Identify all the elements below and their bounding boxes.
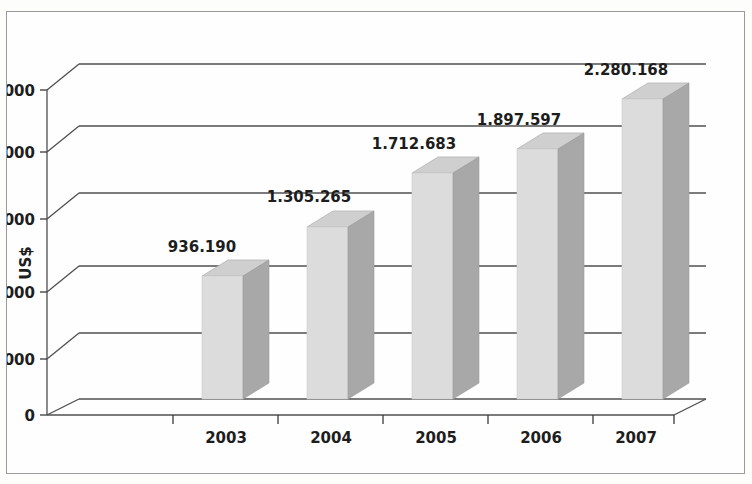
depth-line-1000000	[47, 266, 79, 292]
depth-line-0	[47, 399, 79, 415]
bar-2003[interactable]	[202, 260, 269, 399]
value-label-2007: 2.280.168	[584, 61, 668, 79]
bar-2004-front	[307, 227, 348, 399]
bar-2003-side	[243, 260, 269, 399]
y-tick-label-500000: 500.000	[7, 351, 35, 369]
page-background: 2.500.000 2.000.000 1.500.000 1.000.000 …	[0, 0, 752, 484]
bar-2004[interactable]	[307, 211, 374, 399]
bar-2007[interactable]	[622, 83, 689, 399]
value-label-2004: 1.305.265	[267, 188, 351, 206]
y-tick-label-1500000: 1.500.000	[7, 211, 35, 229]
y-tick-label-0: 0	[25, 407, 35, 425]
bar-2007-front	[622, 99, 663, 399]
bar-2005-side	[453, 157, 479, 399]
x-tickmarks-group	[173, 415, 674, 424]
x-category-labels-group: 2003 2004 2005 2006 2007	[205, 429, 657, 447]
y-tick-label-1000000: 1.000.000	[7, 284, 35, 302]
value-label-2006: 1.897.597	[477, 111, 561, 129]
y-axis-title: US$	[17, 246, 35, 279]
bar-chart-3d: 2.500.000 2.000.000 1.500.000 1.000.000 …	[7, 12, 744, 473]
value-label-2003: 936.190	[168, 238, 236, 256]
value-label-2005: 1.712.683	[372, 135, 456, 153]
bar-2005-front	[412, 173, 453, 399]
depth-line-1500000	[47, 193, 79, 219]
depth-line-2500000	[47, 64, 79, 90]
x-label-2005: 2005	[415, 429, 457, 447]
x-label-2003: 2003	[205, 429, 247, 447]
chart-frame: 2.500.000 2.000.000 1.500.000 1.000.000 …	[6, 11, 745, 474]
x-label-2006: 2006	[520, 429, 562, 447]
bar-2006[interactable]	[517, 133, 584, 399]
gridlines-group	[79, 64, 706, 399]
y-tickmarks-group	[40, 90, 47, 415]
bar-2004-side	[348, 211, 374, 399]
depth-connectors-group	[47, 64, 79, 415]
depth-line-500000	[47, 333, 79, 359]
bar-2007-side	[663, 83, 689, 399]
y-tick-label-2000000: 2.000.000	[7, 144, 35, 162]
floor-right-edge	[674, 399, 706, 415]
bar-2006-side	[558, 133, 584, 399]
bar-2006-front	[517, 149, 558, 399]
bar-2005[interactable]	[412, 157, 479, 399]
x-label-2007: 2007	[615, 429, 657, 447]
depth-line-2000000	[47, 126, 79, 152]
y-tick-label-2500000: 2.500.000	[7, 82, 35, 100]
x-label-2004: 2004	[310, 429, 352, 447]
bar-2003-front	[202, 276, 243, 399]
